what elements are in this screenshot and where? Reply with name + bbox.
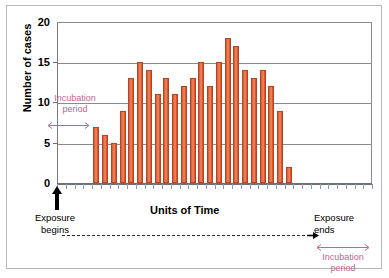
x-tick-mark bbox=[258, 184, 259, 189]
bar bbox=[216, 62, 222, 183]
bar bbox=[102, 135, 108, 183]
incubation-left-line2: period bbox=[62, 104, 87, 114]
x-tick-mark bbox=[267, 184, 268, 189]
x-tick-mark bbox=[250, 184, 251, 189]
bar bbox=[286, 167, 292, 183]
x-tick-mark bbox=[66, 184, 67, 189]
bar bbox=[120, 111, 126, 183]
bar bbox=[172, 94, 178, 183]
bar bbox=[111, 143, 117, 183]
exposure-begins-line2: begins bbox=[41, 224, 69, 235]
x-axis-title: Units of Time bbox=[150, 204, 219, 216]
x-tick-mark bbox=[241, 184, 242, 189]
incubation-right-line2: period bbox=[330, 263, 355, 273]
x-tick-mark bbox=[346, 184, 347, 189]
x-tick-mark bbox=[101, 184, 102, 189]
chart-screenshot: 20 15 10 5 0 Number of cases Units of Ti… bbox=[0, 0, 389, 278]
x-tick-mark bbox=[232, 184, 233, 189]
incubation-period-left-label: Incubation period bbox=[44, 93, 106, 115]
bar bbox=[128, 78, 134, 183]
x-tick-mark bbox=[293, 184, 294, 189]
y-tick-label-0: 0 bbox=[30, 178, 50, 189]
bar bbox=[251, 78, 257, 183]
x-tick-mark bbox=[162, 184, 163, 189]
exposure-begins-arrow-icon bbox=[51, 186, 63, 210]
x-tick-mark bbox=[320, 184, 321, 189]
exposure-begins-line1: Exposure bbox=[35, 212, 75, 223]
x-tick-mark bbox=[363, 184, 364, 189]
incubation-left-line1: Incubation bbox=[54, 93, 96, 103]
bar bbox=[277, 111, 283, 183]
bar bbox=[181, 86, 187, 183]
x-tick-mark bbox=[92, 184, 93, 189]
x-tick-mark bbox=[136, 184, 137, 189]
x-tick-mark bbox=[372, 184, 373, 189]
bar bbox=[233, 46, 239, 183]
bar bbox=[146, 70, 152, 183]
x-tick-mark bbox=[171, 184, 172, 189]
x-tick-mark bbox=[197, 184, 198, 189]
bar bbox=[207, 86, 213, 183]
incubation-right-line1: Incubation bbox=[322, 252, 364, 262]
incubation-period-right-arrow-icon bbox=[315, 243, 371, 252]
bar bbox=[260, 70, 266, 183]
incubation-period-right-label: Incubation period bbox=[309, 252, 377, 274]
exposure-begins-label: Exposure begins bbox=[24, 212, 86, 236]
x-tick-mark bbox=[83, 184, 84, 189]
y-tick-label-15: 15 bbox=[30, 57, 50, 68]
x-tick-mark bbox=[302, 184, 303, 189]
x-tick-mark bbox=[153, 184, 154, 189]
bar bbox=[155, 94, 161, 183]
x-tick-mark bbox=[285, 184, 286, 189]
exposure-ends-line1: Exposure bbox=[314, 212, 354, 223]
x-tick-mark bbox=[110, 184, 111, 189]
x-tick-mark bbox=[337, 184, 338, 189]
y-tick-label-20: 20 bbox=[30, 17, 50, 28]
x-tick-mark bbox=[118, 184, 119, 189]
x-tick-mark bbox=[75, 184, 76, 189]
bar bbox=[163, 78, 169, 183]
exposure-ends-label: Exposure ends bbox=[314, 212, 370, 236]
x-tick-mark bbox=[355, 184, 356, 189]
bar bbox=[93, 127, 99, 183]
bar bbox=[268, 86, 274, 183]
bar bbox=[190, 78, 196, 183]
x-tick-mark bbox=[206, 184, 207, 189]
x-tick-mark bbox=[311, 184, 312, 189]
exposure-duration-dashed-line bbox=[62, 235, 310, 237]
exposure-ends-line2: ends bbox=[314, 224, 335, 235]
bar bbox=[198, 62, 204, 183]
x-tick-mark bbox=[215, 184, 216, 189]
x-tick-mark bbox=[180, 184, 181, 189]
incubation-period-left-arrow-icon bbox=[46, 121, 91, 130]
x-tick-mark bbox=[328, 184, 329, 189]
x-tick-mark bbox=[145, 184, 146, 189]
x-tick-mark bbox=[223, 184, 224, 189]
y-tick-label-5: 5 bbox=[30, 138, 50, 149]
y-axis-title: Number of cases bbox=[21, 8, 33, 128]
bar bbox=[225, 38, 231, 183]
bar bbox=[137, 62, 143, 183]
bar bbox=[242, 70, 248, 183]
x-tick-mark bbox=[188, 184, 189, 189]
x-tick-mark bbox=[276, 184, 277, 189]
x-axis-ticks bbox=[57, 184, 372, 190]
x-tick-mark bbox=[127, 184, 128, 189]
